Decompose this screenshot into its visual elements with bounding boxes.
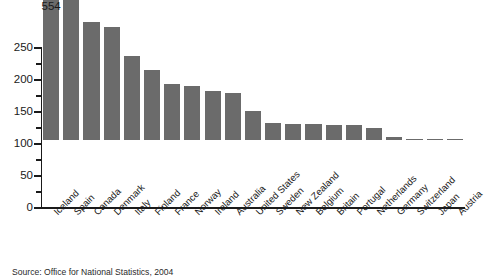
bar <box>285 124 301 140</box>
y-axis-tick-label: 200 <box>0 74 33 86</box>
bar <box>104 27 120 140</box>
source-caption: Source: Office for National Statistics, … <box>12 268 173 277</box>
bar-slot <box>164 0 180 208</box>
bar-slot <box>144 0 160 208</box>
bar-slot <box>245 0 261 208</box>
bar <box>427 139 443 140</box>
bar-slot <box>104 0 120 208</box>
y-axis-tick-label: 50 <box>0 170 33 182</box>
bar-slot <box>63 0 79 208</box>
bar-slot <box>83 0 99 208</box>
bar-slot <box>346 0 362 208</box>
bar <box>406 139 422 140</box>
bar <box>265 123 281 140</box>
y-axis-tick-label: 100 <box>0 138 33 150</box>
bar-slot <box>225 0 241 208</box>
y-axis-tick-label: 150 <box>0 106 33 118</box>
bar-slot <box>386 0 402 208</box>
bar <box>144 70 160 140</box>
bar-slot <box>265 0 281 208</box>
bar <box>184 86 200 140</box>
y-axis-tick-label: 0 <box>0 202 33 214</box>
bar-slot <box>366 0 382 208</box>
bars-layer: 554 <box>41 0 465 208</box>
bar <box>326 125 342 140</box>
bar-slot <box>305 0 321 208</box>
bar <box>164 84 180 140</box>
bar-value-label: 554 <box>41 1 60 13</box>
bar <box>346 125 362 140</box>
bar-slot <box>184 0 200 208</box>
bar-slot <box>427 0 443 208</box>
bar <box>225 93 241 140</box>
bar-slot: 554 <box>43 0 59 208</box>
bar-slot <box>205 0 221 208</box>
x-axis-category-labels: IcelandSpainCanadaDenmarkItalyFinlandFra… <box>41 210 465 268</box>
bar-slot <box>124 0 140 208</box>
bar <box>386 137 402 140</box>
bar <box>124 56 140 140</box>
bar <box>83 22 99 140</box>
bar <box>245 111 261 140</box>
bar <box>366 128 382 140</box>
bar <box>447 139 463 140</box>
bar <box>305 124 321 140</box>
y-axis-tick-label: 250 <box>0 42 33 54</box>
bar <box>63 0 79 140</box>
bar <box>205 91 221 140</box>
bar <box>43 0 59 140</box>
